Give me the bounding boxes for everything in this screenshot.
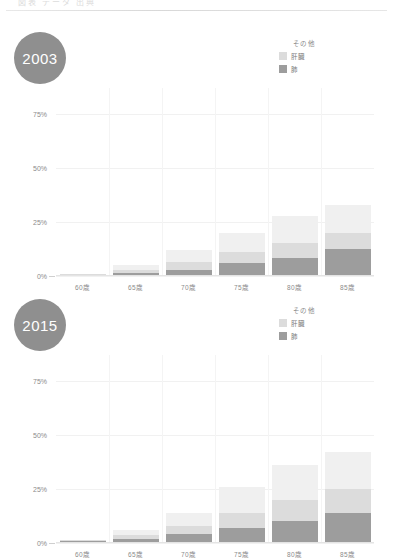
y-axis-tick-label: 0% — [37, 540, 47, 547]
bar-segment-liver[interactable] — [325, 489, 371, 513]
year-badge-2015: 2015 — [14, 299, 66, 351]
bar-stack[interactable] — [166, 513, 212, 543]
bar-segment-liver[interactable] — [166, 262, 212, 270]
bar-stack[interactable] — [272, 216, 318, 276]
y-axis-tick-mark — [49, 276, 55, 277]
x-axis-tick-label: 85歳 — [321, 549, 374, 558]
bar-group[interactable] — [321, 88, 374, 276]
legend-label-lung: 肺 — [291, 331, 298, 341]
bar-segment-liver[interactable] — [219, 513, 265, 528]
bar-segment-lung[interactable] — [272, 258, 318, 276]
legend-title-other: その他 — [293, 38, 365, 48]
y-axis-tick-label: 50% — [33, 431, 47, 438]
bar-group[interactable] — [56, 355, 109, 543]
x-axis-labels-2015: 60歳65歳70歳75歳80歳85歳 — [56, 549, 374, 558]
x-axis-tick-label: 80歳 — [268, 549, 321, 558]
chart-panel-2015: 2015 その他 肝臓 肺 0%25%50%75% 60歳65歳70歳75歳80… — [0, 285, 393, 555]
bar-group[interactable] — [215, 88, 268, 276]
bar-segment-liver[interactable] — [272, 500, 318, 522]
bar-group[interactable] — [109, 88, 162, 276]
bar-segment-other[interactable] — [166, 513, 212, 526]
bar-segment-liver[interactable] — [325, 233, 371, 249]
bars-2003 — [56, 88, 374, 276]
bar-group[interactable] — [162, 355, 215, 543]
legend-swatch-liver — [279, 319, 287, 327]
chart-panel-2003: 2003 その他 肝臓 肺 0%25%50%75% 60歳65歳70歳75歳80… — [0, 18, 393, 288]
y-axis-tick-label: 75% — [33, 110, 47, 117]
x-axis-tick-label: 75歳 — [215, 549, 268, 558]
bar-segment-liver[interactable] — [219, 252, 265, 263]
x-axis-tick-label: 70歳 — [162, 549, 215, 558]
bar-segment-lung[interactable] — [325, 249, 371, 276]
page-header-rule: 図表 データ 出典 — [0, 0, 393, 14]
bar-stack[interactable] — [325, 205, 371, 276]
y-axis-tick-mark — [49, 543, 55, 544]
legend-label-liver: 肝臓 — [291, 318, 306, 328]
bar-segment-lung[interactable] — [219, 528, 265, 543]
bar-segment-liver[interactable] — [166, 526, 212, 535]
x-axis-line-2003 — [56, 275, 374, 276]
x-axis-tick-label: 60歳 — [56, 549, 109, 558]
bar-segment-other[interactable] — [325, 452, 371, 489]
y-axis-tick-label: 50% — [33, 164, 47, 171]
bar-group[interactable] — [268, 355, 321, 543]
legend-title-other: その他 — [293, 305, 365, 315]
bar-segment-other[interactable] — [272, 465, 318, 500]
plot-area-2015: 0%25%50%75% — [56, 355, 374, 543]
bar-stack[interactable] — [272, 465, 318, 543]
bar-group[interactable] — [109, 355, 162, 543]
legend-item-lung: 肺 — [279, 331, 365, 341]
legend-swatch-lung — [279, 332, 287, 340]
bar-segment-other[interactable] — [166, 250, 212, 262]
y-axis-tick-label: 25% — [33, 218, 47, 225]
bar-segment-other[interactable] — [219, 487, 265, 513]
bar-stack[interactable] — [219, 487, 265, 543]
legend-swatch-liver — [279, 52, 287, 60]
bar-group[interactable] — [268, 88, 321, 276]
legend-2003: その他 肝臓 肺 — [279, 38, 365, 77]
bar-group[interactable] — [162, 88, 215, 276]
bar-group[interactable] — [56, 88, 109, 276]
bar-segment-other[interactable] — [272, 216, 318, 243]
y-axis-tick-label: 75% — [33, 377, 47, 384]
y-axis-tick-label: 25% — [33, 485, 47, 492]
bar-segment-other[interactable] — [219, 233, 265, 252]
legend-label-liver: 肝臓 — [291, 51, 306, 61]
year-badge-2003: 2003 — [14, 32, 66, 84]
bar-group[interactable] — [215, 355, 268, 543]
bar-stack[interactable] — [166, 250, 212, 276]
legend-2015: その他 肝臓 肺 — [279, 305, 365, 344]
bar-segment-lung[interactable] — [325, 513, 371, 543]
legend-item-liver: 肝臓 — [279, 318, 365, 328]
bar-segment-lung[interactable] — [272, 521, 318, 543]
page-header-ghost-text: 図表 データ 出典 — [18, 0, 96, 7]
header-divider — [6, 10, 387, 11]
y-axis-tick-label: 0% — [37, 273, 47, 280]
bar-segment-liver[interactable] — [272, 243, 318, 258]
legend-swatch-lung — [279, 65, 287, 73]
legend-item-lung: 肺 — [279, 64, 365, 74]
bar-segment-other[interactable] — [325, 205, 371, 233]
bar-group[interactable] — [321, 355, 374, 543]
x-axis-line-2015 — [56, 542, 374, 543]
legend-item-liver: 肝臓 — [279, 51, 365, 61]
bars-2015 — [56, 355, 374, 543]
plot-area-2003: 0%25%50%75% — [56, 88, 374, 276]
gridline-y — [56, 543, 374, 544]
bar-stack[interactable] — [219, 233, 265, 276]
bar-stack[interactable] — [325, 452, 371, 543]
x-axis-tick-label: 65歳 — [109, 549, 162, 558]
gridline-y — [56, 276, 374, 277]
legend-label-lung: 肺 — [291, 64, 298, 74]
